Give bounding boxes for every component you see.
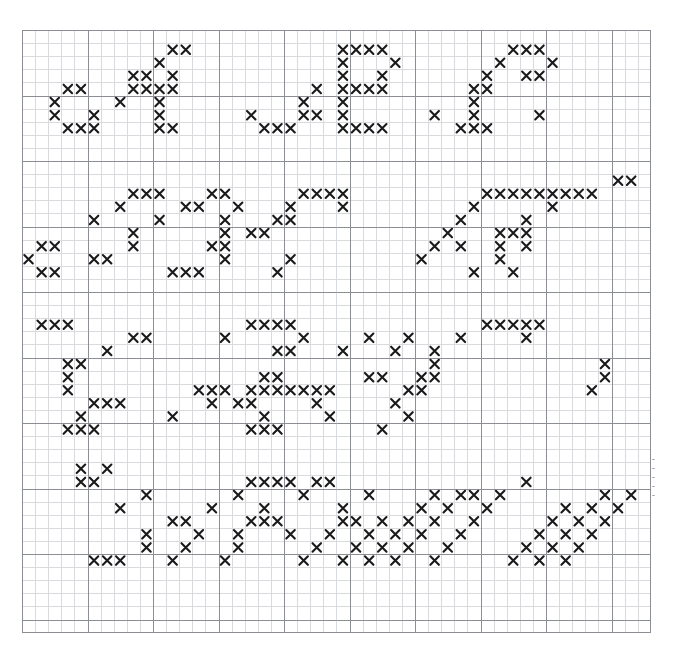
margin-tick: ~ xyxy=(652,491,674,500)
margin-tick: ~ xyxy=(652,473,674,482)
margin-tick: ~ xyxy=(652,464,674,473)
cross-stitch-pattern-page: ~~~~~ xyxy=(0,0,676,650)
margin-tick: ~ xyxy=(652,455,674,464)
margin-tick: ~ xyxy=(652,482,674,491)
stitch-symbols-layer[interactable] xyxy=(22,30,651,633)
margin-annotations: ~~~~~ xyxy=(652,455,674,565)
pattern-chart xyxy=(22,30,651,633)
